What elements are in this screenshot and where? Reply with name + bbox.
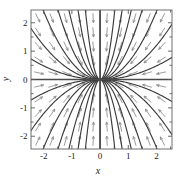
- x-axis-label: x: [95, 165, 101, 176]
- x-tick-label: -2: [40, 151, 48, 161]
- x-tick-label: 0: [98, 151, 103, 161]
- y-tick-label: 2: [23, 18, 28, 28]
- y-tick-label: -2: [20, 131, 28, 141]
- y-tick-label: -1: [20, 103, 28, 113]
- y-tick-label: 1: [23, 46, 28, 56]
- y-tick-label: 0: [23, 75, 28, 85]
- x-tick-label: 2: [154, 151, 159, 161]
- phase-portrait-figure: -2-1012-2-1012 x y: [0, 0, 179, 180]
- x-tick-label: -1: [68, 151, 76, 161]
- direction-field-plot: -2-1012-2-1012 x y: [0, 0, 179, 180]
- x-tick-label: 1: [126, 151, 131, 161]
- y-axis-label: y: [0, 76, 11, 82]
